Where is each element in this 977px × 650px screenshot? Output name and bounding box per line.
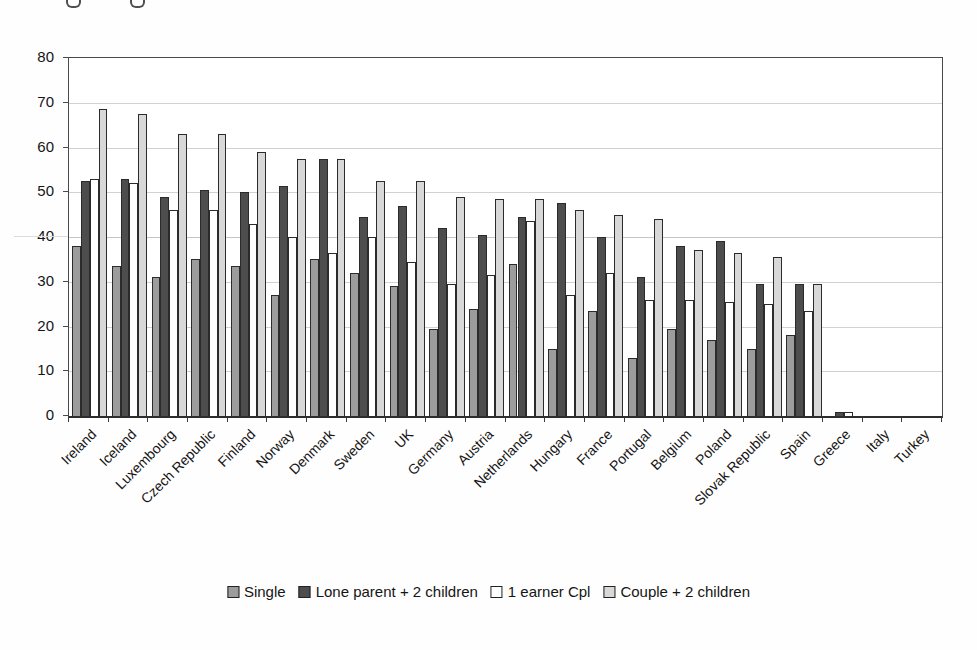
bar bbox=[368, 237, 377, 416]
bar bbox=[716, 241, 725, 416]
bar-chart: 01020304050607080 IrelandIcelandLuxembou… bbox=[0, 0, 977, 650]
bar bbox=[350, 273, 359, 416]
bar bbox=[240, 192, 249, 416]
y-tick bbox=[63, 281, 68, 282]
x-tick bbox=[266, 417, 267, 422]
bar bbox=[707, 340, 716, 416]
y-axis-label-20: 20 bbox=[18, 317, 54, 335]
legend-label-lone-parent: Lone parent + 2 children bbox=[316, 583, 478, 600]
legend-item-lone-parent: Lone parent + 2 children bbox=[299, 583, 478, 600]
x-tick bbox=[108, 417, 109, 422]
bar bbox=[557, 203, 566, 416]
bar bbox=[191, 259, 200, 416]
bar bbox=[288, 237, 297, 416]
x-tick bbox=[346, 417, 347, 422]
bar bbox=[160, 197, 169, 416]
gridline-extension bbox=[14, 236, 68, 237]
bar bbox=[694, 250, 703, 416]
bar bbox=[257, 152, 266, 416]
bar bbox=[667, 329, 676, 416]
bar bbox=[438, 228, 447, 416]
y-tick bbox=[63, 326, 68, 327]
bar bbox=[518, 217, 527, 416]
bar bbox=[835, 412, 844, 416]
bar bbox=[152, 277, 161, 416]
legend-item-couple: Couple + 2 children bbox=[603, 583, 750, 600]
x-tick bbox=[227, 417, 228, 422]
bar bbox=[734, 253, 743, 416]
legend-item-1-earner-cpl: 1 earner Cpl bbox=[491, 583, 591, 600]
bar bbox=[129, 183, 138, 416]
y-tick bbox=[63, 57, 68, 58]
bar bbox=[575, 210, 584, 416]
bar bbox=[676, 246, 685, 416]
x-tick bbox=[822, 417, 823, 422]
cropped-text-artifact bbox=[66, 0, 81, 8]
y-axis-label-10: 10 bbox=[18, 361, 54, 379]
bar bbox=[725, 302, 734, 416]
bar bbox=[637, 277, 646, 416]
x-tick bbox=[68, 417, 69, 422]
legend-swatch-single bbox=[227, 586, 239, 598]
bar bbox=[328, 253, 337, 416]
bar bbox=[390, 286, 399, 416]
x-tick bbox=[584, 417, 585, 422]
legend-item-single: Single bbox=[227, 583, 286, 600]
bar bbox=[645, 300, 654, 416]
bar bbox=[535, 199, 544, 416]
bar bbox=[337, 159, 346, 416]
bar bbox=[597, 237, 606, 416]
bar bbox=[429, 329, 438, 416]
y-tick bbox=[63, 191, 68, 192]
bar bbox=[786, 335, 795, 416]
legend-swatch-couple bbox=[603, 586, 615, 598]
y-tick bbox=[63, 415, 68, 416]
bar bbox=[566, 295, 575, 416]
legend: Single Lone parent + 2 children 1 earner… bbox=[227, 583, 750, 600]
bar bbox=[548, 349, 557, 416]
bar bbox=[747, 349, 756, 416]
y-axis-label-0: 0 bbox=[18, 406, 54, 424]
bar bbox=[271, 295, 280, 416]
bar bbox=[844, 412, 853, 416]
bar bbox=[398, 206, 407, 416]
bar bbox=[773, 257, 782, 416]
bar bbox=[359, 217, 368, 416]
bar bbox=[478, 235, 487, 416]
y-tick bbox=[63, 370, 68, 371]
bar bbox=[81, 181, 90, 416]
bar bbox=[200, 190, 209, 416]
x-tick bbox=[187, 417, 188, 422]
x-tick bbox=[544, 417, 545, 422]
cropped-text-artifact bbox=[130, 0, 145, 8]
bar bbox=[112, 266, 121, 416]
legend-swatch-1-earner-cpl bbox=[491, 586, 503, 598]
bar bbox=[169, 210, 178, 416]
x-tick bbox=[306, 417, 307, 422]
bar bbox=[487, 275, 496, 416]
x-tick bbox=[743, 417, 744, 422]
bar bbox=[416, 181, 425, 416]
bar bbox=[178, 134, 187, 416]
x-tick bbox=[624, 417, 625, 422]
bar bbox=[90, 179, 99, 416]
bar bbox=[249, 224, 258, 416]
bar bbox=[756, 284, 765, 416]
y-axis-label-50: 50 bbox=[18, 182, 54, 200]
gridline-70 bbox=[69, 103, 942, 104]
bar bbox=[99, 109, 108, 416]
bar bbox=[456, 197, 465, 416]
x-tick bbox=[703, 417, 704, 422]
bar bbox=[509, 264, 518, 416]
bar bbox=[606, 273, 615, 416]
bar bbox=[685, 300, 694, 416]
legend-label-1-earner-cpl: 1 earner Cpl bbox=[508, 583, 591, 600]
bar bbox=[209, 210, 218, 416]
bar bbox=[764, 304, 773, 416]
bar bbox=[319, 159, 328, 416]
bar bbox=[628, 358, 637, 416]
y-tick bbox=[63, 147, 68, 148]
x-tick bbox=[862, 417, 863, 422]
bar bbox=[447, 284, 456, 416]
bar bbox=[813, 284, 822, 416]
